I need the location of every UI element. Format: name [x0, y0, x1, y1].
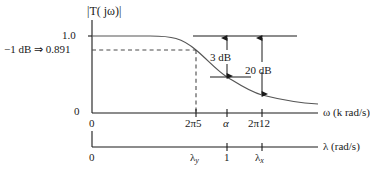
omega-tick-label-0: 0 [89, 118, 95, 129]
lambda-tick-label-lambda-x: λx [255, 152, 264, 165]
omega-tick-label-2pi5: 2π5 [185, 118, 202, 129]
minus-1db-callout: −1 dB ⇒ 0.891 [4, 44, 71, 55]
omega-axis-title: ω (k rad/s) [323, 107, 370, 118]
lambda-tick-label-0: 0 [89, 152, 95, 163]
magnitude-response-curve [92, 36, 318, 104]
y-tick-label-0: 0 [74, 106, 80, 117]
lambda-x-subscript: x [260, 156, 264, 165]
magnitude-response-figure: |T( jω)| 1.0 0 −1 dB ⇒ 0.891 3 dB 20 dB … [0, 0, 370, 170]
lambda-axis-title: λ (rad/s) [323, 141, 360, 152]
measure-label-20db: 20 dB [245, 65, 272, 76]
lambda-tick-label-1: 1 [224, 152, 230, 163]
lambda-tick-label-lambda-y: λy [190, 152, 199, 165]
lambda-y-subscript: y [195, 156, 199, 165]
measure-label-3db: 3 dB [210, 52, 231, 63]
plot-canvas [0, 0, 370, 170]
omega-tick-label-2pi12: 2π12 [248, 118, 270, 129]
y-axis-title: |T( jω)| [87, 5, 121, 17]
omega-tick-label-alpha: α [223, 118, 229, 129]
y-tick-label-1-0: 1.0 [62, 30, 76, 41]
